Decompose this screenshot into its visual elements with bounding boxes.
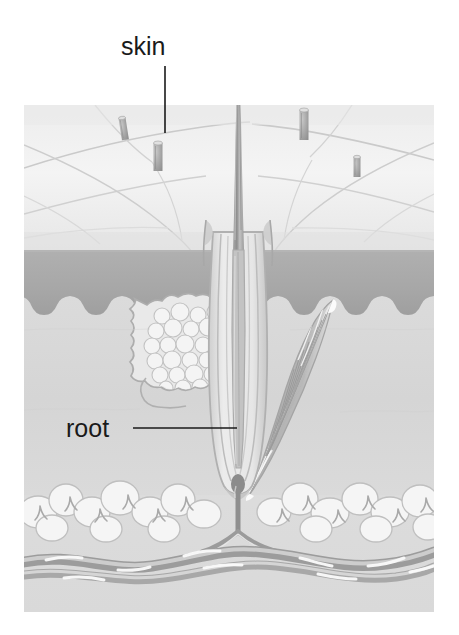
illustration-body	[0, 34, 443, 612]
label-root-text: root	[66, 414, 109, 442]
hair-stub	[354, 155, 361, 177]
hair-stub	[300, 108, 309, 140]
label-skin-text: skin	[121, 32, 165, 60]
anatomy-illustration: skin root	[0, 0, 459, 635]
hair-skin-anatomy-figure: skin root	[0, 0, 459, 635]
hair-stub	[154, 141, 163, 171]
